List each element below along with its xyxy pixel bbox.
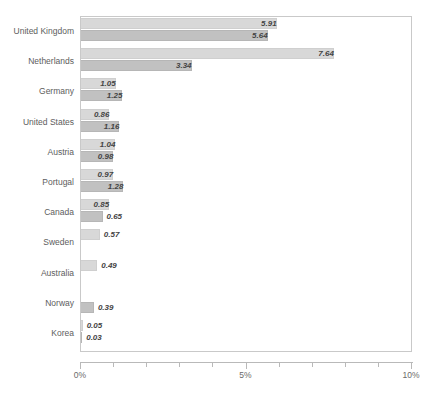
bar-group: 0.49 xyxy=(81,260,412,283)
bar-slot: 0.98 xyxy=(81,151,412,162)
bar-group: 0.850.65 xyxy=(81,199,412,222)
bar-slot: 1.25 xyxy=(81,90,412,101)
bar-slot: 1.04 xyxy=(81,139,412,150)
category-label: United States xyxy=(0,117,74,127)
bar-value-label: 0.03 xyxy=(82,332,102,343)
axis-tick-major xyxy=(80,362,81,369)
category-label: Portugal xyxy=(0,177,74,187)
bar-slot: 7.64 xyxy=(81,48,412,59)
bar-value-label: 0.05 xyxy=(83,320,103,331)
bar-group: 1.051.25 xyxy=(81,78,412,101)
bar-value-label: 1.04 xyxy=(81,139,118,150)
bar-slot: 5.91 xyxy=(81,18,412,29)
chart-row: Australia0.49 xyxy=(0,260,440,283)
axis-tick-minor xyxy=(378,362,379,367)
axis-tick-minor xyxy=(212,362,213,367)
bar-slot xyxy=(81,241,412,252)
bar-slot xyxy=(81,272,412,283)
bar-slot: 0.49 xyxy=(81,260,412,271)
axis-tick-label: 10% xyxy=(402,370,419,380)
bar-value-label: 0.39 xyxy=(94,302,114,313)
bar-value-label: 7.64 xyxy=(81,48,337,59)
bar-value-label: 0.49 xyxy=(97,260,117,271)
bar-slot: 0.03 xyxy=(81,332,412,343)
bar xyxy=(81,211,103,222)
bar-value-label: 3.34 xyxy=(81,60,195,71)
axis-tick-minor xyxy=(345,362,346,367)
category-label: United Kingdom xyxy=(0,26,74,36)
chart-row: United Kingdom5.915.64 xyxy=(0,18,440,41)
chart-row: Norway0.39 xyxy=(0,290,440,313)
category-label: Germany xyxy=(0,86,74,96)
bar-slot: 0.97 xyxy=(81,169,412,180)
category-label: Australia xyxy=(0,268,74,278)
axis-tick-minor xyxy=(113,362,114,367)
axis-tick-major xyxy=(246,362,247,369)
bar-value-label: 1.05 xyxy=(81,78,119,89)
x-axis: 0%5%10% xyxy=(80,362,413,370)
chart-row: Netherlands7.643.34 xyxy=(0,48,440,71)
bar-group: 5.915.64 xyxy=(81,18,412,41)
bar xyxy=(81,229,100,240)
category-label: Canada xyxy=(0,207,74,217)
axis-tick-minor xyxy=(312,362,313,367)
bar-value-label: 5.91 xyxy=(81,18,280,29)
axis-tick-minor xyxy=(179,362,180,367)
bar-group: 0.971.28 xyxy=(81,169,412,192)
bar-slot: 0.05 xyxy=(81,320,412,331)
bar-value-label: 0.57 xyxy=(100,229,120,240)
bar-slot: 1.05 xyxy=(81,78,412,89)
bar-slot: 3.34 xyxy=(81,60,412,71)
bar-value-label: 1.16 xyxy=(81,121,122,132)
category-label: Korea xyxy=(0,328,74,338)
bar-group: 0.57 xyxy=(81,229,412,252)
x-axis-line xyxy=(80,362,413,363)
chart-row: United States0.861.16 xyxy=(0,109,440,132)
chart-row: Korea0.050.03 xyxy=(0,320,440,343)
axis-tick-label: 5% xyxy=(239,370,251,380)
bar-group: 0.39 xyxy=(81,290,412,313)
bar-value-label: 0.85 xyxy=(81,199,112,210)
bar-slot: 0.86 xyxy=(81,109,412,120)
bar-value-label: 0.86 xyxy=(81,109,112,120)
chart-row: Canada0.850.65 xyxy=(0,199,440,222)
bar-slot: 0.85 xyxy=(81,199,412,210)
bar xyxy=(81,260,97,271)
axis-tick-minor xyxy=(146,362,147,367)
chart-row: Germany1.051.25 xyxy=(0,78,440,101)
bar-slot xyxy=(81,290,412,301)
bar-slot: 0.65 xyxy=(81,211,412,222)
category-label: Netherlands xyxy=(0,56,74,66)
axis-tick-minor xyxy=(279,362,280,367)
axis-tick-major xyxy=(411,362,412,369)
bar-group: 0.861.16 xyxy=(81,109,412,132)
chart-row: Austria1.040.98 xyxy=(0,139,440,162)
bar-slot: 1.16 xyxy=(81,121,412,132)
chart-row: Sweden0.57 xyxy=(0,229,440,252)
bar-value-label: 1.25 xyxy=(81,90,125,101)
bar-slot: 1.28 xyxy=(81,181,412,192)
category-label: Austria xyxy=(0,147,74,157)
bar-slot: 0.39 xyxy=(81,302,412,313)
bar-slot: 0.57 xyxy=(81,229,412,240)
axis-tick-label: 0% xyxy=(74,370,86,380)
bar-chart: United Kingdom5.915.64Netherlands7.643.3… xyxy=(0,0,440,402)
bar-slot: 5.64 xyxy=(81,30,412,41)
bar-group: 0.050.03 xyxy=(81,320,412,343)
bar-value-label: 0.98 xyxy=(81,151,116,162)
bar-value-label: 0.65 xyxy=(103,211,123,222)
bar-value-label: 1.28 xyxy=(81,181,126,192)
category-label: Norway xyxy=(0,298,74,308)
bar-group: 7.643.34 xyxy=(81,48,412,71)
bar-group: 1.040.98 xyxy=(81,139,412,162)
bar xyxy=(81,302,94,313)
chart-row: Portugal0.971.28 xyxy=(0,169,440,192)
bar-value-label: 0.97 xyxy=(81,169,116,180)
category-label: Sweden xyxy=(0,237,74,247)
bar-value-label: 5.64 xyxy=(81,30,271,41)
